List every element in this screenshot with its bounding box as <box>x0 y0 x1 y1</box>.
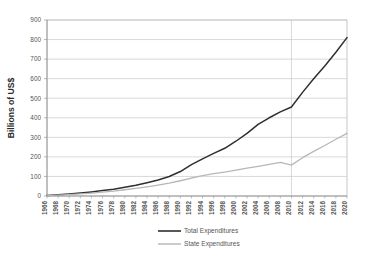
y-axis-title: Billions of US$ <box>6 77 16 138</box>
y-axis-title-text: Billions of US$ <box>6 77 16 138</box>
x-tick-label-2010: 2010 <box>285 201 292 216</box>
x-tick-label-1986: 1986 <box>152 201 159 216</box>
x-tick-label-2014: 2014 <box>308 201 315 216</box>
x-tick-label-1990: 1990 <box>174 201 181 216</box>
expenditures-line-chart: 0100200300400500600700800900 19661968197… <box>0 0 376 258</box>
plot-background-group <box>47 20 347 196</box>
chart-legend: Total ExpendituresState Expenditures <box>158 227 240 248</box>
y-tick-label-800: 800 <box>30 36 41 43</box>
x-tick-label-2008: 2008 <box>274 201 281 216</box>
x-tick-label-1988: 1988 <box>163 201 170 216</box>
y-tick-label-400: 400 <box>30 114 41 121</box>
x-tick-label-2004: 2004 <box>252 201 259 216</box>
x-tick-label-1976: 1976 <box>97 201 104 216</box>
legend-label-state-expenditures: State Expenditures <box>184 240 240 248</box>
x-tick-label-1996: 1996 <box>208 201 215 216</box>
x-tick-label-2000: 2000 <box>230 201 237 216</box>
y-tick-label-700: 700 <box>30 55 41 62</box>
x-tick-label-2012: 2012 <box>297 201 304 216</box>
x-tick-label-1992: 1992 <box>185 201 192 216</box>
x-tick-label-1966: 1966 <box>41 201 48 216</box>
x-tick-label-1974: 1974 <box>85 201 92 216</box>
y-tick-label-500: 500 <box>30 95 41 102</box>
y-tick-label-600: 600 <box>30 75 41 82</box>
y-tick-label-0: 0 <box>37 192 41 199</box>
y-tick-label-900: 900 <box>30 16 41 23</box>
y-axis-tick-labels: 0100200300400500600700800900 <box>30 16 47 199</box>
x-tick-label-1994: 1994 <box>197 201 204 216</box>
x-tick-label-2006: 2006 <box>263 201 270 216</box>
x-tick-label-2020: 2020 <box>341 201 348 216</box>
y-tick-label-200: 200 <box>30 153 41 160</box>
plot-area-background <box>47 20 347 196</box>
x-tick-label-2002: 2002 <box>241 201 248 216</box>
x-tick-label-1980: 1980 <box>119 201 126 216</box>
x-tick-label-1968: 1968 <box>52 201 59 216</box>
x-tick-label-1982: 1982 <box>130 201 137 216</box>
x-tick-label-1970: 1970 <box>63 201 70 216</box>
x-tick-label-1998: 1998 <box>219 201 226 216</box>
x-axis-tick-labels: 1966196819701972197419761978198019821984… <box>41 196 348 215</box>
legend-label-total-expenditures: Total Expenditures <box>184 227 239 235</box>
y-tick-label-100: 100 <box>30 173 41 180</box>
chart-container: 0100200300400500600700800900 19661968197… <box>0 0 376 258</box>
x-tick-label-2016: 2016 <box>319 201 326 216</box>
y-tick-label-300: 300 <box>30 134 41 141</box>
x-tick-label-1978: 1978 <box>108 201 115 216</box>
x-tick-label-1984: 1984 <box>141 201 148 216</box>
x-tick-label-2018: 2018 <box>330 201 337 216</box>
x-tick-label-1972: 1972 <box>74 201 81 216</box>
